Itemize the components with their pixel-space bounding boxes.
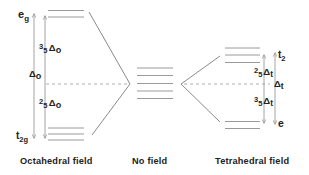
crystal-field-splitting-diagram: eg t2g Δo 35Δo 25Δo Octahedral field No … bbox=[0, 0, 309, 175]
two-fifths-delta-t-label: 25Δt bbox=[254, 66, 273, 79]
two-fifths-delta-o-label: 25Δo bbox=[39, 97, 62, 110]
t2g-label: t2g bbox=[16, 130, 29, 144]
no-field-caption: No field bbox=[132, 156, 167, 166]
octahedral-correlation-lines bbox=[89, 12, 130, 135]
tetrahedral-field-caption: Tetrahedral field bbox=[215, 156, 289, 166]
delta-t-label: Δt bbox=[274, 78, 284, 91]
free-ion-group: No field bbox=[132, 68, 173, 166]
tetrahedral-t2-levels bbox=[225, 48, 260, 63]
tetrahedral-e-levels bbox=[225, 122, 260, 129]
octahedral-t2g-levels bbox=[48, 128, 84, 140]
e-label: e bbox=[278, 117, 284, 129]
octahedral-field-caption: Octahedral field bbox=[20, 156, 93, 166]
three-fifths-delta-t-label: 35Δt bbox=[254, 95, 273, 108]
delta-o-label: Δo bbox=[29, 68, 42, 81]
octahedral-field-group: eg t2g Δo 35Δo 25Δo Octahedral field bbox=[16, 8, 130, 166]
tetrahedral-correlation-lines bbox=[181, 56, 220, 122]
octahedral-eg-levels bbox=[48, 11, 84, 18]
eg-label: eg bbox=[18, 8, 29, 23]
tetrahedral-field-group: t2 e Δt 25Δt 35Δt Tetrahedral field bbox=[181, 48, 289, 166]
t2-label: t2 bbox=[278, 49, 286, 63]
three-fifths-delta-o-label: 35Δo bbox=[39, 42, 62, 55]
